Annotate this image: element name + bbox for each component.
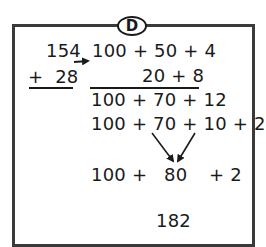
expanded-row-3: 100 + 70 + 12	[91, 91, 227, 109]
final-sum: 182	[156, 212, 191, 230]
regroup-part-1: 100 +	[91, 166, 147, 184]
expanded-row-2: 20 + 8	[142, 67, 204, 85]
addend-1: 154	[46, 42, 81, 60]
problem-label-badge: D	[117, 16, 147, 36]
regroup-part-3: + 2	[209, 166, 242, 184]
expanded-row-1: 100 + 50 + 4	[92, 42, 216, 60]
addend-2: + 28	[28, 68, 78, 86]
regroup-part-2: 80	[164, 166, 187, 184]
expanded-row-4: 100 + 70 + 10 + 2	[91, 115, 266, 133]
sum-line-left	[29, 87, 73, 89]
